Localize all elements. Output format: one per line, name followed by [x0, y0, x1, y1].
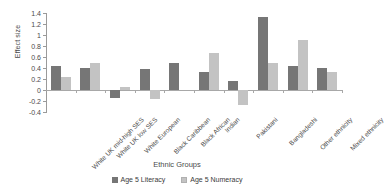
bar	[209, 53, 219, 90]
bar	[258, 17, 268, 90]
y-axis-tick-label: 0.8	[31, 43, 41, 50]
y-axis-tick-label: 0.2	[31, 76, 41, 83]
y-axis-tick-label: 0.4	[31, 65, 41, 72]
bar	[228, 81, 238, 90]
x-axis-title: Ethnic Groups	[0, 160, 354, 169]
y-axis-tick-label: -0.4	[29, 109, 41, 116]
y-axis-tick	[43, 112, 47, 113]
bar	[288, 66, 298, 90]
bar	[327, 72, 337, 90]
y-axis-tick-label: 1.2	[31, 21, 41, 28]
bar	[80, 68, 90, 90]
bar-group	[224, 13, 254, 112]
y-axis-title: Effect size	[14, 7, 21, 77]
y-axis-tick-label: -0.2	[29, 98, 41, 105]
bar	[317, 68, 327, 90]
legend-swatch	[181, 177, 187, 183]
bar-group	[76, 13, 106, 112]
bar-group	[105, 13, 135, 112]
bar-group	[194, 13, 224, 112]
x-axis-category-label: Mixed ethnicity	[349, 116, 385, 152]
x-axis-category-label: Bangladeshi	[288, 116, 319, 147]
y-axis-tick-label: 1	[37, 32, 41, 39]
bar-group	[46, 13, 76, 112]
legend-item: Age 5 Numeracy	[181, 176, 242, 183]
legend-item: Age 5 Literacy	[112, 176, 166, 183]
bar-group	[312, 13, 342, 112]
plot-area: 1.41.210.80.60.40.20-0.2-0.4	[46, 13, 342, 112]
bar-group	[283, 13, 313, 112]
bar	[298, 40, 308, 90]
bar-group	[135, 13, 165, 112]
bar	[268, 63, 278, 90]
bar	[199, 72, 209, 90]
bar	[61, 77, 71, 90]
x-axis-category-label: Pakistani	[255, 116, 279, 140]
legend-label: Age 5 Literacy	[121, 176, 166, 183]
bar	[90, 63, 100, 91]
bar	[51, 66, 61, 90]
legend-label: Age 5 Numeracy	[190, 176, 242, 183]
y-axis-tick-label: 1.4	[31, 10, 41, 17]
bar	[238, 90, 248, 105]
y-axis-tick-label: 0.6	[31, 54, 41, 61]
bar	[110, 90, 120, 98]
x-axis-tick	[342, 90, 343, 93]
legend-swatch	[112, 177, 118, 183]
bar	[140, 69, 150, 90]
bar-group	[164, 13, 194, 112]
bar	[169, 63, 179, 91]
bar-group	[253, 13, 283, 112]
bar	[120, 87, 130, 90]
y-axis-tick-label: 0	[37, 87, 41, 94]
bar	[150, 90, 160, 99]
chart-legend: Age 5 LiteracyAge 5 Numeracy	[0, 176, 354, 183]
